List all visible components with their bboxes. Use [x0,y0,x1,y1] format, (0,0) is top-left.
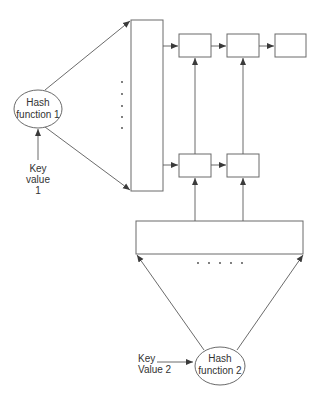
hash-function-1-label-line2: function 1 [16,109,60,120]
hash-function-2-label-line2: function 2 [198,365,242,376]
hash-diagram: Hash function 1 Key value 1 Hash functio… [0,0,321,395]
key-value-1-label-line3: 1 [35,185,41,196]
chain-node-top-3 [275,34,306,57]
key-value-1-label-line1: Key [29,163,46,174]
chain-node-bottom-1 [179,154,211,177]
ellipsis-vertical [121,81,123,129]
chain-node-top-2 [227,34,259,57]
arrow-hash1-to-table1-bottom [45,127,130,190]
key-value-2-label-line2: Value 2 [138,364,172,375]
chain-node-bottom-2 [227,154,259,177]
ellipsis-horizontal [197,262,243,264]
key-value-2-label-line1: Key [138,353,155,364]
arrow-hash2-to-table2-left [137,255,204,350]
chain-node-top-1 [179,34,211,57]
hash-function-1-label-line1: Hash [26,97,49,108]
bucket-array-2 [136,221,303,254]
bucket-array-1 [131,20,163,191]
hash-function-2-label-line1: Hash [208,353,231,364]
arrow-hash2-to-table2-right [237,255,303,350]
arrow-hash1-to-table1-top [45,21,130,90]
key-value-1-label-line2: value [26,174,50,185]
